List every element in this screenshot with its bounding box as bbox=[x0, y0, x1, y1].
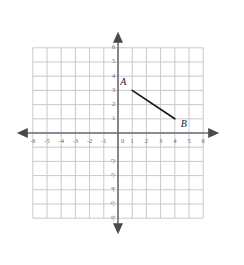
x-tick-label: -3 bbox=[73, 137, 78, 144]
y-tick-label: -4 bbox=[109, 186, 116, 192]
y-tick-label: 1 bbox=[112, 114, 115, 121]
x-axis-arrow-left bbox=[17, 128, 28, 138]
x-tick-label: 2 bbox=[145, 137, 148, 144]
origin-label: 0 bbox=[121, 137, 124, 144]
y-tick-label: 6 bbox=[112, 43, 116, 50]
x-tick-label: 4 bbox=[173, 137, 177, 144]
x-tick-label: -6 bbox=[30, 137, 36, 144]
coordinate-plane-svg: -6-5-4-3-2-1123456654321-2-3-4-5-60AB bbox=[0, 0, 244, 265]
y-tick-label: -3 bbox=[109, 173, 116, 178]
x-tick-label: 1 bbox=[131, 137, 134, 144]
x-tick-label: 6 bbox=[202, 137, 206, 144]
x-axis-arrow-right bbox=[208, 128, 219, 138]
y-tick-label: -6 bbox=[109, 215, 116, 221]
y-tick-label: 3 bbox=[112, 86, 115, 93]
x-tick-label: 3 bbox=[159, 137, 162, 144]
x-tick-label: 5 bbox=[187, 137, 190, 144]
y-tick-label: -5 bbox=[109, 201, 116, 206]
y-tick-label: 4 bbox=[112, 72, 116, 79]
point-label-a: A bbox=[119, 76, 127, 87]
coordinate-plane-figure: -6-5-4-3-2-1123456654321-2-3-4-5-60AB bbox=[0, 0, 244, 265]
point-labels: AB bbox=[119, 76, 187, 128]
y-axis-arrow-down bbox=[113, 223, 123, 234]
point-label-b: B bbox=[181, 118, 187, 129]
y-tick-label: 2 bbox=[112, 100, 115, 107]
x-tick-label: -1 bbox=[101, 137, 106, 144]
y-tick-label: -2 bbox=[109, 159, 116, 164]
x-tick-label: -2 bbox=[87, 137, 92, 144]
x-tick-label: -4 bbox=[58, 137, 64, 144]
y-axis-arrow-up bbox=[113, 32, 123, 43]
y-tick-label: 5 bbox=[112, 57, 115, 64]
x-tick-label: -5 bbox=[44, 137, 49, 144]
